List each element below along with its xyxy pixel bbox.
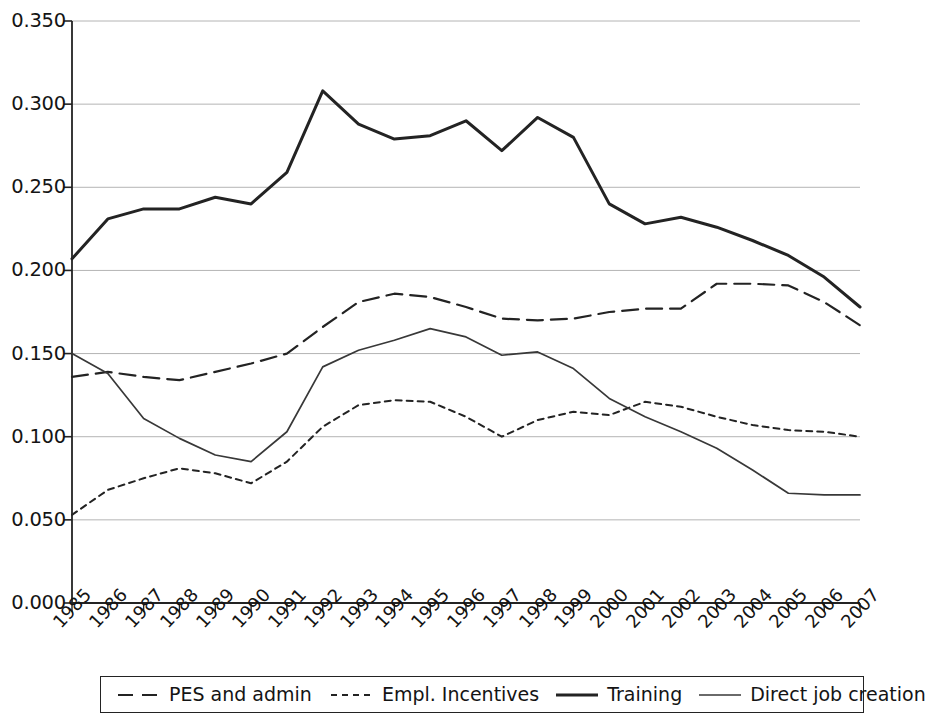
legend-label: PES and admin [169,685,312,704]
gridlines [72,21,860,603]
y-axis-tick-label: 0.150 [4,344,66,364]
legend-swatch-solid-thin [698,688,742,702]
legend-item: Empl. Incentives [330,685,539,704]
legend-item: Direct job creation [698,685,926,704]
legend-label: Empl. Incentives [382,685,539,704]
legend-label: Training [607,685,682,704]
y-axis-tick-label: 0.100 [4,427,66,447]
series-line-training [72,91,860,307]
legend-item: Training [555,685,682,704]
y-axis-tick-label: 0.250 [4,177,66,197]
y-axis-tick-label: 0.050 [4,510,66,530]
y-axis-tick-label: 0.200 [4,260,66,280]
series-line-pes-and-admin [72,284,860,380]
legend-swatch-dashed [117,688,161,702]
legend-label: Direct job creation [750,685,926,704]
series-line-empl-incentives [72,400,860,515]
legend-swatch-dotted [330,688,374,702]
y-axis-tick-label: 0.300 [4,94,66,114]
data-series-layer [72,91,860,515]
legend-swatch-solid-thick [555,688,599,702]
legend-item: PES and admin [117,685,312,704]
y-axis-tick-label: 0.350 [4,11,66,31]
axes [72,21,860,603]
chart-legend: PES and adminEmpl. IncentivesTrainingDir… [100,676,864,713]
